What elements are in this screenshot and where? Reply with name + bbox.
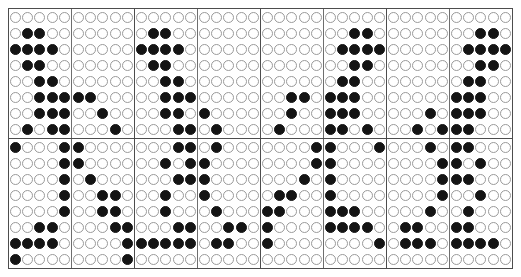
dot-row (261, 172, 323, 188)
empty-circle-icon (500, 12, 511, 23)
empty-circle-icon (248, 254, 259, 265)
empty-circle-icon (286, 28, 297, 39)
dot-row (198, 10, 260, 26)
empty-circle-icon (425, 12, 436, 23)
empty-circle-icon (262, 174, 273, 185)
dot-row (9, 235, 71, 251)
empty-circle-icon (211, 108, 222, 119)
empty-circle-icon (248, 222, 259, 233)
filled-circle-icon (274, 124, 285, 135)
empty-circle-icon (274, 254, 285, 265)
empty-circle-icon (362, 108, 373, 119)
empty-circle-icon (236, 158, 247, 169)
empty-circle-icon (236, 44, 247, 55)
dot-row (324, 156, 386, 172)
empty-circle-icon (10, 60, 21, 71)
dot-row (324, 42, 386, 58)
empty-circle-icon (311, 124, 322, 135)
matrix-half-pane (449, 9, 512, 138)
filled-circle-icon (349, 28, 360, 39)
empty-circle-icon (10, 158, 21, 169)
empty-circle-icon (97, 12, 108, 23)
empty-circle-icon (110, 92, 121, 103)
empty-circle-icon (362, 76, 373, 87)
empty-circle-icon (10, 206, 21, 217)
empty-circle-icon (488, 76, 499, 87)
filled-circle-icon (425, 108, 436, 119)
empty-circle-icon (437, 76, 448, 87)
matrix-block (134, 9, 260, 138)
empty-circle-icon (286, 158, 297, 169)
empty-circle-icon (311, 60, 322, 71)
empty-circle-icon (47, 206, 58, 217)
filled-circle-icon (286, 92, 297, 103)
empty-circle-icon (400, 76, 411, 87)
empty-circle-icon (148, 190, 159, 201)
dot-row (9, 156, 71, 172)
filled-circle-icon (451, 124, 462, 135)
empty-circle-icon (488, 206, 499, 217)
dot-row (324, 219, 386, 235)
empty-circle-icon (236, 108, 247, 119)
empty-circle-icon (148, 124, 159, 135)
filled-circle-icon (47, 44, 58, 55)
empty-circle-icon (388, 44, 399, 55)
filled-circle-icon (437, 174, 448, 185)
empty-circle-icon (349, 174, 360, 185)
filled-circle-icon (349, 60, 360, 71)
empty-circle-icon (412, 76, 423, 87)
empty-circle-icon (374, 108, 385, 119)
empty-circle-icon (10, 222, 21, 233)
filled-circle-icon (110, 222, 121, 233)
filled-circle-icon (10, 238, 21, 249)
empty-circle-icon (59, 238, 70, 249)
dot-row (198, 74, 260, 90)
empty-circle-icon (325, 44, 336, 55)
empty-circle-icon (362, 254, 373, 265)
empty-circle-icon (388, 28, 399, 39)
empty-circle-icon (374, 190, 385, 201)
dot-row (198, 235, 260, 251)
empty-circle-icon (425, 124, 436, 135)
filled-circle-icon (286, 190, 297, 201)
empty-circle-icon (500, 28, 511, 39)
empty-circle-icon (22, 254, 33, 265)
empty-circle-icon (337, 190, 348, 201)
empty-circle-icon (122, 12, 133, 23)
filled-circle-icon (136, 44, 147, 55)
filled-circle-icon (34, 92, 45, 103)
empty-circle-icon (388, 222, 399, 233)
empty-circle-icon (97, 92, 108, 103)
empty-circle-icon (97, 124, 108, 135)
empty-circle-icon (248, 108, 259, 119)
empty-circle-icon (451, 28, 462, 39)
empty-circle-icon (136, 60, 147, 71)
empty-circle-icon (223, 142, 234, 153)
matrix-block (9, 9, 134, 138)
empty-circle-icon (374, 76, 385, 87)
empty-circle-icon (400, 142, 411, 153)
empty-circle-icon (248, 44, 259, 55)
empty-circle-icon (85, 158, 96, 169)
empty-circle-icon (500, 190, 511, 201)
filled-circle-icon (22, 60, 33, 71)
empty-circle-icon (374, 12, 385, 23)
empty-circle-icon (10, 92, 21, 103)
empty-circle-icon (47, 28, 58, 39)
empty-circle-icon (325, 76, 336, 87)
filled-circle-icon (59, 206, 70, 217)
empty-circle-icon (85, 142, 96, 153)
empty-circle-icon (199, 60, 210, 71)
filled-circle-icon (325, 92, 336, 103)
empty-circle-icon (160, 124, 171, 135)
empty-circle-icon (148, 206, 159, 217)
dot-row (387, 105, 449, 121)
filled-circle-icon (349, 44, 360, 55)
empty-circle-icon (299, 12, 310, 23)
filled-circle-icon (451, 142, 462, 153)
dot-row (198, 42, 260, 58)
empty-circle-icon (337, 174, 348, 185)
dot-row (135, 74, 197, 90)
dot-row (261, 74, 323, 90)
filled-circle-icon (374, 44, 385, 55)
